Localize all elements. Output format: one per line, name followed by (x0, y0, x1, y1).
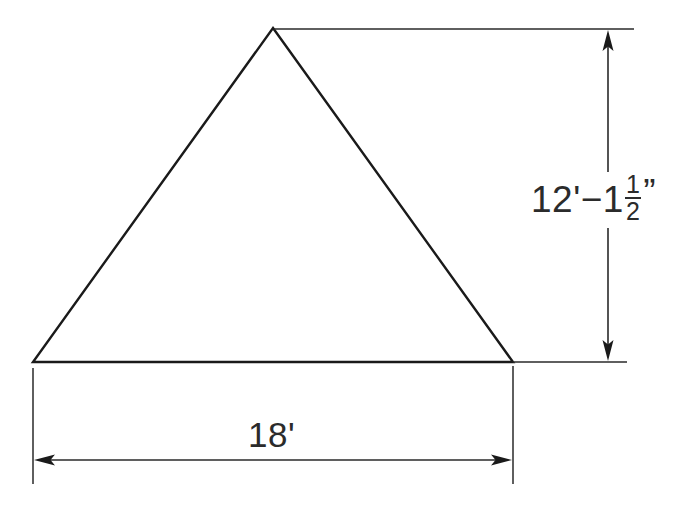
vertical-dimension-fraction: 1 2 (625, 173, 641, 223)
fraction-denominator: 2 (625, 200, 641, 223)
vertical-dimension-label: 12'−1 1 2 ” (531, 170, 656, 228)
vertical-dimension-inch-mark: ” (643, 174, 656, 211)
horizontal-dimension-label: 18' (248, 417, 295, 452)
fraction-numerator: 1 (625, 173, 641, 196)
triangle-shape (33, 28, 513, 362)
technical-drawing-canvas: 12'−1 1 2 ” 18' (0, 0, 690, 508)
drawing-svg (0, 0, 690, 508)
vertical-dimension-separator: − (581, 181, 603, 218)
vertical-dimension-inches-whole: 1 (603, 181, 624, 218)
vertical-dimension-feet: 12' (531, 181, 581, 218)
